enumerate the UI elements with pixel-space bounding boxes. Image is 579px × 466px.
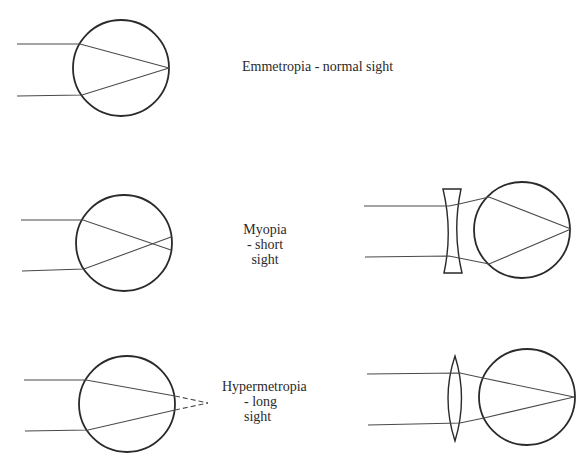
ray-bottom-hypermetropia <box>25 410 175 431</box>
myopia-corrected-diagram <box>364 182 571 278</box>
convex-lens <box>448 356 462 441</box>
concave-lens <box>443 189 462 273</box>
ray-top-myopia-corrected <box>364 197 571 229</box>
ray-top-hypermetropia-corrected <box>367 373 574 397</box>
ray-top-hypermetropia <box>24 380 175 396</box>
label-hypermetropia: Hypermetropia - long sight <box>222 379 320 424</box>
ray-top-extension-dashed <box>175 396 208 403</box>
label-myopia: Myopia - short sight <box>240 222 290 267</box>
hypermetropia-corrected-diagram <box>367 349 575 445</box>
emmetropia-diagram <box>17 20 169 116</box>
ray-bottom-myopia-corrected <box>365 229 571 264</box>
eye-hypermetropia <box>79 356 175 452</box>
label-line: sight <box>222 409 320 424</box>
ray-top-emmetropia <box>17 44 169 68</box>
myopia-diagram <box>21 195 172 291</box>
label-line: Myopia <box>240 222 290 237</box>
eye-hypermetropia-corrected <box>479 349 575 445</box>
eye-myopia <box>76 195 172 291</box>
label-line: sight <box>240 252 290 267</box>
label-line: - long <box>222 394 320 409</box>
label-line: Hypermetropia <box>222 379 320 394</box>
ray-bottom-emmetropia <box>17 68 169 96</box>
ray-bottom-extension-dashed <box>175 403 208 410</box>
ray-bottom-hypermetropia-corrected <box>368 397 574 425</box>
hypermetropia-diagram <box>24 356 208 452</box>
label-line: Emmetropia - normal sight <box>242 60 393 74</box>
label-emmetropia: Emmetropia - normal sight <box>242 60 393 74</box>
eye-emmetropia <box>73 20 169 116</box>
label-line: - short <box>240 237 290 252</box>
